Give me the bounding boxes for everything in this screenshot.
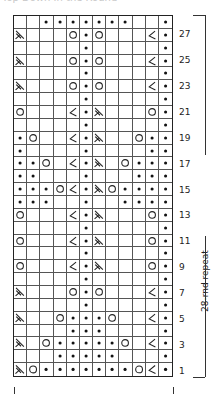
chart-cell: [80, 132, 93, 145]
chart-cell: [80, 312, 93, 325]
chart-cell: [80, 325, 93, 338]
chart-cell: [133, 157, 146, 170]
chart-cell: [67, 119, 80, 132]
chart-cell: [119, 363, 132, 376]
chart-cell: [54, 16, 67, 29]
chart-cell: [119, 299, 132, 312]
chart-cell: [159, 363, 172, 376]
chart-cell: [40, 157, 53, 170]
chart-cell: [106, 106, 119, 119]
chart-cell: [14, 119, 27, 132]
chart-cell: [40, 312, 53, 325]
chart-cell: [67, 42, 80, 55]
chart-cell: [27, 106, 40, 119]
chart-cell: [54, 196, 67, 209]
repeat-tick-left: [14, 387, 15, 394]
chart-cell: [27, 260, 40, 273]
chart-cell: [93, 337, 106, 350]
row-number-label: 25: [179, 55, 190, 65]
chart-cell: [27, 350, 40, 363]
chart-cell: [40, 170, 53, 183]
chart-cell: [106, 235, 119, 248]
chart-cell: [159, 222, 172, 235]
chart-cell: [54, 183, 67, 196]
chart-cell: [14, 67, 27, 80]
chart-cell: [67, 299, 80, 312]
chart-cell: [54, 132, 67, 145]
chart-cell: [80, 196, 93, 209]
row-number-label: 7: [179, 288, 185, 298]
row-number-label: 11: [179, 236, 190, 246]
repeat-bracket-line-upper: [205, 15, 206, 155]
chart-cell: [93, 235, 106, 248]
chart-cell: [119, 273, 132, 286]
chart-cell: [67, 235, 80, 248]
chart-cell: [14, 235, 27, 248]
chart-cell: [119, 337, 132, 350]
chart-cell: [159, 55, 172, 68]
chart-cell: [54, 55, 67, 68]
chart-cell: [14, 325, 27, 338]
chart-cell: [93, 170, 106, 183]
chart-cell: [40, 55, 53, 68]
chart-cell: [159, 170, 172, 183]
chart-cell: [133, 80, 146, 93]
chart-cell: [54, 106, 67, 119]
chart-cell: [106, 67, 119, 80]
chart-cell: [133, 273, 146, 286]
chart-cell: [14, 42, 27, 55]
chart-cell: [93, 209, 106, 222]
chart-cell: [93, 119, 106, 132]
chart-cell: [146, 325, 159, 338]
chart-cell: [159, 299, 172, 312]
chart-cell: [80, 157, 93, 170]
chart-cell: [146, 170, 159, 183]
chart-cell: [54, 299, 67, 312]
chart-cell: [67, 183, 80, 196]
chart-cell: [80, 93, 93, 106]
chart-cell: [146, 80, 159, 93]
chart-cell: [67, 157, 80, 170]
chart-cell: [40, 363, 53, 376]
chart-cell: [146, 93, 159, 106]
chart-cell: [27, 299, 40, 312]
chart-cell: [80, 222, 93, 235]
chart-cell: [106, 42, 119, 55]
chart-cell: [106, 93, 119, 106]
chart-cell: [146, 273, 159, 286]
chart-cell: [159, 42, 172, 55]
chart-cell: [67, 337, 80, 350]
chart-cell: [27, 337, 40, 350]
chart-cell: [159, 80, 172, 93]
chart-cell: [133, 209, 146, 222]
chart-cell: [146, 312, 159, 325]
chart-cell: [93, 157, 106, 170]
chart-cell: [106, 273, 119, 286]
chart-cell: [27, 55, 40, 68]
chart-cell: [40, 145, 53, 158]
chart-cell: [80, 209, 93, 222]
chart-cell: [146, 29, 159, 42]
chart-cell: [67, 350, 80, 363]
chart-cell: [119, 235, 132, 248]
chart-cell: [54, 337, 67, 350]
chart-cell: [67, 209, 80, 222]
chart-cell: [119, 286, 132, 299]
chart-cell: [67, 55, 80, 68]
chart-cell: [106, 222, 119, 235]
chart-cell: [119, 93, 132, 106]
chart-cell: [40, 260, 53, 273]
chart-cell: [67, 363, 80, 376]
chart-cell: [40, 196, 53, 209]
chart-cell: [93, 145, 106, 158]
chart-cell: [67, 260, 80, 273]
chart-cell: [27, 119, 40, 132]
chart-cell: [27, 235, 40, 248]
chart-cell: [106, 299, 119, 312]
chart-cell: [27, 286, 40, 299]
chart-cell: [14, 273, 27, 286]
chart-cell: [106, 145, 119, 158]
chart-cell: [106, 209, 119, 222]
chart-cell: [27, 222, 40, 235]
chart-cell: [146, 132, 159, 145]
